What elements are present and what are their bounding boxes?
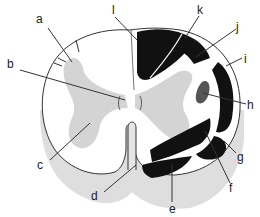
spinal-cord-diagram: a b c d e f g h i j k l bbox=[0, 0, 260, 217]
label-g: g bbox=[237, 151, 244, 163]
label-e: e bbox=[169, 203, 176, 215]
label-f: f bbox=[229, 182, 232, 194]
ventral-median-fissure bbox=[128, 122, 136, 170]
spinal-cord-svg bbox=[0, 0, 260, 217]
label-i: i bbox=[244, 53, 247, 65]
label-j: j bbox=[236, 21, 239, 33]
label-a: a bbox=[36, 13, 43, 25]
label-c: c bbox=[37, 159, 43, 171]
label-d: d bbox=[91, 190, 98, 202]
label-l: l bbox=[112, 4, 115, 16]
label-h: h bbox=[247, 99, 254, 111]
label-k: k bbox=[197, 4, 203, 16]
label-b: b bbox=[7, 58, 14, 70]
